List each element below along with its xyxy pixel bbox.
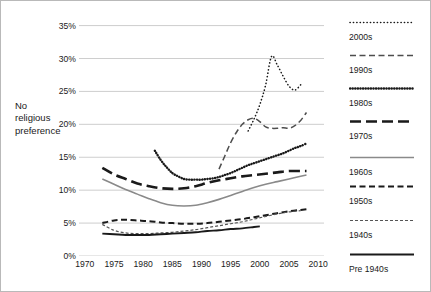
x-tick-label: 1975 xyxy=(104,259,123,269)
x-tick-label: 2005 xyxy=(279,259,298,269)
x-tick-label: 2010 xyxy=(309,259,328,269)
legend-swatch-icon xyxy=(349,51,415,60)
y-tick-label: 10% xyxy=(46,185,76,195)
series-line-1940s xyxy=(102,211,300,234)
legend-item-1980s[interactable]: 1980s xyxy=(349,79,419,108)
y-axis-tick-labels: 0%5%10%15%20%25%30%35% xyxy=(43,19,76,256)
legend-swatch-icon xyxy=(349,153,415,162)
y-tick-label: 15% xyxy=(46,152,76,162)
legend-swatch-icon xyxy=(349,18,415,27)
y-tick-label: 30% xyxy=(46,54,76,64)
legend-label: 1940s xyxy=(349,230,419,240)
legend-item-1950s[interactable]: 1950s xyxy=(349,177,419,206)
legend-item-2000s[interactable]: 2000s xyxy=(349,13,419,42)
legend-swatch-icon xyxy=(349,117,415,126)
y-tick-label: 35% xyxy=(46,21,76,31)
legend-item-1970s[interactable]: 1970s xyxy=(349,112,419,141)
x-tick-label: 1990 xyxy=(192,259,211,269)
plot-svg xyxy=(79,19,324,256)
legend-item-1940s[interactable]: 1940s xyxy=(349,211,419,240)
series-line-1980s xyxy=(155,143,307,179)
legend-label: 1960s xyxy=(349,167,419,177)
chart-legend: 2000s1990s1980s1970s1960s1950s1940sPre 1… xyxy=(349,13,419,273)
x-tick-label: 1970 xyxy=(75,259,94,269)
legend-swatch-icon xyxy=(349,84,415,93)
legend-label: 2000s xyxy=(349,32,419,42)
series-line-1950s xyxy=(102,209,306,224)
legend-swatch-icon xyxy=(349,182,415,191)
legend-label: Pre 1940s xyxy=(349,264,419,274)
legend-label: 1980s xyxy=(349,98,419,108)
plot-area xyxy=(79,19,324,256)
x-tick-label: 1980 xyxy=(134,259,153,269)
y-tick-label: 25% xyxy=(46,86,76,96)
legend-label: 1950s xyxy=(349,196,419,206)
y-tick-label: 0% xyxy=(46,251,76,261)
legend-label: 1990s xyxy=(349,65,419,75)
legend-swatch-icon xyxy=(349,250,415,259)
x-axis-tick-labels: 197019751980198519901995200020052010 xyxy=(79,259,324,273)
x-tick-label: 1985 xyxy=(163,259,182,269)
legend-label: 1970s xyxy=(349,131,419,141)
x-tick-label: 2000 xyxy=(250,259,269,269)
y-tick-label: 20% xyxy=(46,119,76,129)
legend-item-pre-1940s[interactable]: Pre 1940s xyxy=(349,245,419,274)
legend-item-1960s[interactable]: 1960s xyxy=(349,148,419,177)
y-tick-label: 5% xyxy=(46,218,76,228)
series-line-pre-1940s xyxy=(102,226,260,235)
chart-frame: Noreligiouspreference 0%5%10%15%20%25%30… xyxy=(0,0,431,292)
legend-item-1990s[interactable]: 1990s xyxy=(349,46,419,75)
legend-swatch-icon xyxy=(349,216,415,225)
x-tick-label: 1995 xyxy=(221,259,240,269)
